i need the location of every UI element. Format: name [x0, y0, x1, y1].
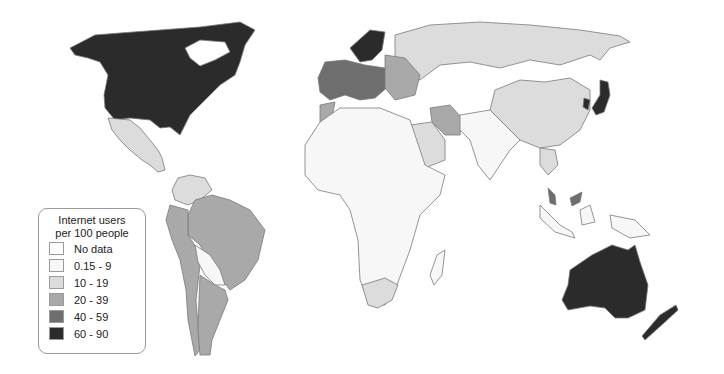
legend-swatch [49, 242, 64, 255]
legend-swatch [49, 327, 64, 340]
region-indonesia [540, 205, 650, 238]
legend-swatch [49, 276, 64, 289]
legend-swatch [49, 310, 64, 323]
legend-label: 60 - 90 [74, 328, 108, 340]
legend: Internet users per 100 people No data 0.… [38, 208, 146, 354]
region-argentina [198, 275, 228, 355]
legend-item-60-90: 60 - 90 [49, 325, 145, 342]
legend-title-line1: Internet users [39, 214, 145, 227]
legend-item-10-19: 10 - 19 [49, 274, 145, 291]
region-north-america [70, 22, 255, 135]
legend-label: 20 - 39 [74, 294, 108, 306]
legend-item-20-39: 20 - 39 [49, 291, 145, 308]
legend-title: Internet users per 100 people [39, 214, 145, 240]
legend-item-40-59: 40 - 59 [49, 308, 145, 325]
region-brazil [188, 195, 265, 290]
region-mexico [108, 118, 165, 172]
legend-item-0-9: 0.15 - 9 [49, 257, 145, 274]
legend-item-no-data: No data [49, 240, 145, 257]
legend-swatch [49, 259, 64, 272]
region-madagascar [430, 250, 445, 285]
legend-label: 0.15 - 9 [74, 260, 111, 272]
region-western-europe [318, 60, 390, 100]
legend-swatch [49, 293, 64, 306]
legend-label: 10 - 19 [74, 277, 108, 289]
legend-title-line2: per 100 people [39, 227, 145, 240]
region-russia [395, 22, 630, 80]
region-australia [562, 245, 648, 318]
legend-label: 40 - 59 [74, 311, 108, 323]
legend-label: No data [74, 243, 113, 255]
region-scandinavia [350, 30, 385, 62]
region-se-asia [540, 148, 558, 175]
region-new-zealand [642, 305, 678, 340]
region-malaysia [548, 188, 582, 206]
